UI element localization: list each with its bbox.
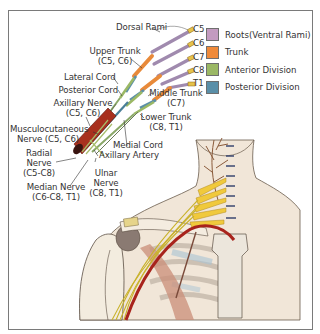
legend-item-anterior-division: Anterior Division [206, 61, 311, 79]
legend-swatch-roots [206, 28, 219, 41]
label-root-c7: C7 [193, 52, 204, 62]
label-lower-trunk: Lower Trunk (C8, T1) [138, 112, 194, 132]
label-median-nerve: Median Nerve (C6-C8, T1) [24, 182, 88, 202]
label-medial-cord: Medial Cord [113, 140, 163, 150]
label-lower-trunk-name: Lower Trunk [138, 112, 194, 122]
label-ulnar-name: Ulnar [86, 168, 126, 178]
label-musculocutaneous-nerve: Musculocutaneous Nerve (C5, C6) [10, 124, 86, 144]
legend-swatch-trunk [206, 46, 219, 59]
label-median-roots: (C6-C8, T1) [24, 192, 88, 202]
label-radial-roots: (C5-C8) [20, 168, 58, 178]
label-median-name: Median Nerve [24, 182, 88, 192]
label-axillary-artery: Axillary Artery [99, 150, 159, 160]
label-radial-nerve: Radial Nerve (C5-C8) [20, 148, 58, 178]
label-ulnar-roots: (C8, T1) [86, 188, 126, 198]
label-middle-trunk-name: Middle Trunk [148, 88, 204, 98]
legend-label-anterior-division: Anterior Division [225, 65, 296, 75]
label-upper-trunk-name: Upper Trunk [86, 46, 144, 56]
label-root-c5: C5 [193, 24, 204, 34]
label-musculocutaneous-roots: Nerve (C5, C6) [10, 134, 86, 144]
torso-illustration [80, 138, 300, 320]
legend-label-posterior-division: Posterior Division [225, 82, 300, 92]
label-root-c8: C8 [193, 65, 204, 75]
legend-label-roots: Roots(Ventral Rami) [225, 30, 311, 40]
label-ulnar-nerve: Ulnar Nerve (C8, T1) [86, 168, 126, 198]
legend-label-trunk: Trunk [225, 47, 248, 57]
label-upper-trunk-roots: (C5, C6) [86, 56, 144, 66]
label-lower-trunk-roots: (C8, T1) [138, 122, 194, 132]
legend: Roots(Ventral Rami) Trunk Anterior Divis… [206, 26, 311, 96]
legend-item-posterior-division: Posterior Division [206, 79, 311, 97]
label-radial-name: Radial [20, 148, 58, 158]
label-axillary-nerve-roots: (C5, C6) [52, 108, 114, 118]
label-upper-trunk: Upper Trunk (C5, C6) [86, 46, 144, 66]
label-radial-nerve-word: Nerve [20, 158, 58, 168]
legend-item-roots: Roots(Ventral Rami) [206, 26, 311, 44]
label-dorsal-rami: Dorsal Rami [116, 22, 167, 32]
legend-swatch-anterior-division [206, 63, 219, 76]
label-lateral-cord: Lateral Cord [64, 72, 114, 82]
legend-swatch-posterior-division [206, 81, 219, 94]
label-middle-trunk-roots: (C7) [148, 98, 204, 108]
label-root-c6: C6 [193, 38, 204, 48]
label-axillary-nerve: Axillary Nerve (C5, C6) [52, 98, 114, 118]
legend-item-trunk: Trunk [206, 44, 311, 62]
label-posterior-cord: Posterior Cord [50, 85, 118, 95]
label-axillary-nerve-name: Axillary Nerve [52, 98, 114, 108]
label-root-t1: T1 [193, 78, 204, 88]
label-ulnar-nerve-word: Nerve [86, 178, 126, 188]
label-middle-trunk: Middle Trunk (C7) [148, 88, 204, 108]
label-musculocutaneous-name: Musculocutaneous [10, 124, 86, 134]
